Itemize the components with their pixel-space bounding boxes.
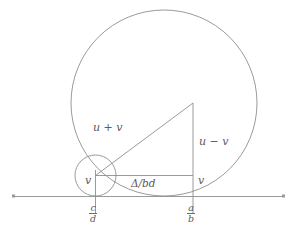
fraction-c-over-d-numerator: c: [89, 203, 97, 213]
label-small-circle-radius-v: v: [85, 175, 91, 186]
label-hypotenuse-u-plus-v: u + v: [93, 122, 123, 133]
fraction-a-over-b-numerator: a: [187, 203, 195, 213]
axis-left-endpoint-tick: [12, 195, 15, 198]
axis-right-endpoint-tick: [282, 195, 285, 198]
label-right-radius-v: v: [198, 175, 204, 186]
fraction-c-over-d-denominator: d: [89, 213, 97, 224]
fraction-a-over-b-denominator: b: [187, 213, 195, 224]
ford-circles-diagram: [0, 0, 290, 238]
fraction-c-over-d: c d: [89, 203, 97, 224]
large-circle: [71, 10, 257, 196]
triangle-hypotenuse: [96, 103, 194, 176]
fraction-a-over-b: a b: [187, 203, 195, 224]
label-horizontal-leg-delta-over-bd: Δ/bd: [131, 178, 156, 189]
label-vertical-leg-u-minus-v: u − v: [199, 136, 229, 147]
